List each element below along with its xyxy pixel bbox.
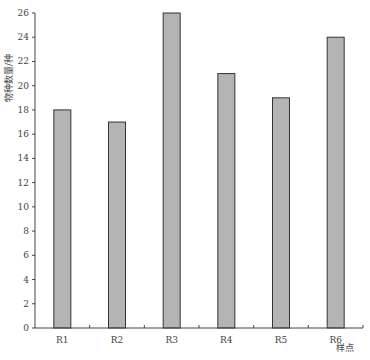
y-tick-label: 10: [18, 202, 30, 212]
bar-r5: [273, 98, 290, 328]
y-tick-label: 22: [18, 56, 29, 66]
y-axis-title: 物种数量/种: [3, 54, 14, 102]
bar-r1: [54, 110, 71, 328]
y-tick-label: 2: [23, 299, 29, 309]
x-tick-label: R2: [111, 335, 124, 345]
y-tick-label: 6: [23, 250, 29, 260]
x-tick-label: R5: [275, 335, 288, 345]
y-tick-label: 14: [18, 153, 30, 163]
y-tick-label: 18: [18, 105, 30, 115]
y-tick-label: 20: [18, 81, 30, 91]
bar-r2: [109, 122, 126, 328]
y-tick-label: 4: [23, 275, 29, 285]
y-tick-label: 26: [18, 8, 30, 18]
x-tick-label: R3: [165, 335, 178, 345]
x-tick-label: R4: [220, 335, 233, 345]
bar-r6: [327, 37, 344, 328]
bars: [54, 13, 344, 328]
y-tick-label: 8: [23, 226, 29, 236]
x-axis-title: 样点: [336, 342, 354, 353]
y-tick-label: 16: [18, 129, 30, 139]
y-tick-label: 0: [23, 323, 29, 333]
bar-chart: 02468101214161820222426 R1R2R3R4R5R6 物种数…: [0, 0, 370, 360]
y-axis-ticks: 02468101214161820222426: [18, 8, 35, 333]
bar-r3: [163, 13, 180, 328]
y-tick-label: 12: [18, 178, 29, 188]
y-tick-label: 24: [18, 32, 30, 42]
x-tick-label: R1: [56, 335, 69, 345]
bar-r4: [218, 74, 235, 328]
